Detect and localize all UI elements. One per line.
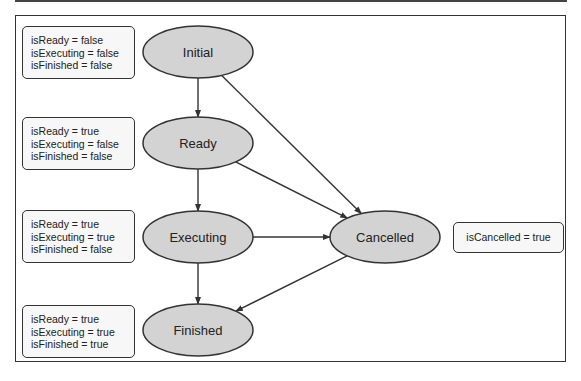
state-line: isCancelled = true — [466, 231, 550, 244]
node-label: Executing — [169, 230, 226, 245]
state-line: isReady = false — [31, 34, 134, 47]
state-line: isFinished = true — [31, 338, 134, 351]
state-box-initial: isReady = false isExecuting = false isFi… — [22, 26, 135, 79]
state-box-executing: isReady = true isExecuting = true isFini… — [22, 210, 135, 263]
state-line: isReady = true — [31, 125, 134, 138]
state-line: isFinished = false — [31, 59, 134, 72]
node-executing: Executing — [143, 211, 253, 263]
node-cancelled: Cancelled — [330, 211, 440, 263]
state-line: isFinished = false — [31, 150, 134, 163]
edge-cancelled-to-finished — [236, 256, 347, 311]
state-box-cancelled: isCancelled = true — [453, 222, 564, 253]
state-line: isReady = true — [31, 313, 134, 326]
state-line: isReady = true — [31, 218, 134, 231]
state-line: isExecuting = false — [31, 47, 134, 60]
state-box-finished: isReady = true isExecuting = true isFini… — [22, 305, 135, 358]
edge-ready-to-cancelled — [236, 162, 348, 218]
state-line: isExecuting = true — [31, 326, 134, 339]
state-box-ready: isReady = true isExecuting = false isFin… — [22, 117, 135, 170]
node-initial: Initial — [143, 26, 253, 78]
node-label: Cancelled — [356, 230, 414, 245]
node-label: Initial — [183, 45, 213, 60]
state-line: isFinished = false — [31, 243, 134, 256]
node-finished: Finished — [143, 304, 253, 356]
state-line: isExecuting = true — [31, 231, 134, 244]
node-ready: Ready — [143, 117, 253, 169]
node-label: Ready — [179, 136, 217, 151]
state-line: isExecuting = false — [31, 138, 134, 151]
node-label: Finished — [173, 323, 222, 338]
